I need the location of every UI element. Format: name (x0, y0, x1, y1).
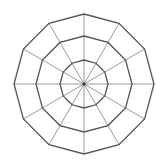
spoke-line (23, 84, 84, 119)
spoke-line (84, 84, 145, 119)
spoke-line (84, 23, 119, 84)
spoke-line (49, 84, 84, 145)
spoke-line (84, 49, 145, 84)
spoke-line (49, 23, 84, 84)
radar-grid-diagram (0, 0, 163, 167)
center-point (82, 82, 85, 85)
spoke-line (23, 49, 84, 84)
spoke-line (84, 84, 119, 145)
